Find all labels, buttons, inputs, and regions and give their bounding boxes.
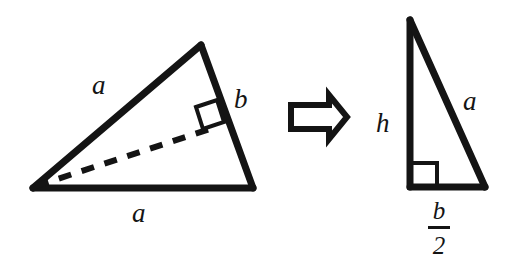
label-right-triangle-base-fraction: b 2 — [428, 198, 450, 258]
right-triangle-right-angle-marker — [413, 163, 437, 185]
label-left-triangle-side-upper: a — [92, 72, 106, 99]
left-triangle-dashed-altitude — [36, 129, 210, 186]
left-triangle-side-right — [201, 45, 253, 188]
block-arrow-right-icon — [291, 95, 347, 139]
block-arrow-outline — [291, 95, 347, 139]
left-triangle-right-angle-marker — [196, 100, 224, 129]
left-triangle-side-upper — [33, 45, 201, 188]
fraction-numerator: b — [433, 198, 446, 224]
fraction-denominator: 2 — [433, 232, 446, 258]
label-right-triangle-side-hypotenuse: a — [463, 88, 477, 115]
fraction-bar — [428, 226, 450, 229]
left-triangle-group — [33, 45, 253, 188]
label-left-triangle-side-right: b — [234, 86, 248, 113]
geometry-figure: a b a h a b 2 — [0, 0, 513, 276]
label-left-triangle-side-bottom: a — [132, 200, 146, 227]
label-right-triangle-side-vertical: h — [376, 110, 390, 137]
